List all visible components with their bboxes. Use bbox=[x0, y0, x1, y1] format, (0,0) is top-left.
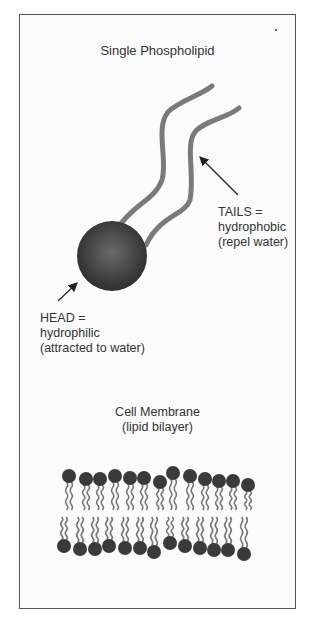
bottom-lipid-tail bbox=[151, 517, 153, 546]
top-lipid-head bbox=[108, 469, 122, 483]
head-arrow bbox=[58, 283, 77, 301]
top-lipid-head bbox=[137, 471, 151, 485]
bottom-lipid-head bbox=[221, 543, 235, 557]
bottom-lipid-tail bbox=[167, 517, 169, 537]
top-lipid-tail bbox=[170, 479, 172, 510]
tails-label-line1: TAILS = bbox=[218, 205, 288, 220]
bottom-lipid-head bbox=[57, 539, 71, 553]
bottom-lipid-tail bbox=[182, 517, 184, 540]
bottom-lipid-tail bbox=[141, 517, 143, 542]
bottom-lipid-head bbox=[193, 541, 207, 555]
membrane-label-line1: Cell Membrane bbox=[19, 405, 296, 420]
top-lipid-tail bbox=[141, 484, 143, 510]
head-label: HEAD = hydrophilic (attracted to water) bbox=[40, 311, 145, 356]
bottom-lipid-head bbox=[163, 536, 177, 550]
membrane-label-line2: (lipid bilayer) bbox=[19, 420, 296, 435]
top-lipid-head bbox=[241, 478, 255, 492]
head-label-line3: (attracted to water) bbox=[40, 341, 145, 356]
bottom-lipid-tail bbox=[241, 517, 243, 548]
top-lipid-tail bbox=[97, 485, 99, 510]
lipid-bilayer bbox=[57, 466, 255, 561]
top-lipid-head bbox=[153, 475, 167, 489]
top-lipid-head bbox=[198, 472, 212, 486]
top-lipid-tail bbox=[116, 482, 118, 510]
bottom-lipid-head bbox=[237, 547, 251, 561]
bottom-lipid-tail bbox=[81, 517, 83, 543]
top-lipid-tail bbox=[66, 482, 68, 510]
bottom-lipid-tail bbox=[215, 517, 217, 544]
top-lipid-tail bbox=[112, 482, 114, 510]
top-lipid-tail bbox=[145, 484, 147, 510]
bottom-lipid-tail bbox=[137, 517, 139, 542]
bottom-lipid-tail bbox=[201, 517, 203, 542]
top-lipid-tail bbox=[220, 487, 222, 510]
top-lipid-head bbox=[62, 469, 76, 483]
top-lipid-head bbox=[79, 472, 93, 486]
bottom-lipid-tail bbox=[92, 517, 94, 543]
bottom-lipid-tail bbox=[77, 517, 79, 543]
top-lipid-tail bbox=[230, 487, 232, 510]
bottom-lipid-head bbox=[133, 541, 147, 555]
top-lipid-tail bbox=[157, 488, 159, 510]
tails-label: TAILS = hydrophobic (repel water) bbox=[218, 205, 288, 250]
top-lipid-tail bbox=[206, 485, 208, 510]
top-lipid-head bbox=[212, 474, 226, 488]
tails-arrow bbox=[200, 157, 238, 195]
top-lipid-tail bbox=[202, 485, 204, 510]
bottom-lipid-head bbox=[118, 541, 132, 555]
top-lipid-head bbox=[226, 474, 240, 488]
top-lipid-tail bbox=[187, 482, 189, 510]
top-lipid-tail bbox=[249, 491, 251, 510]
bottom-lipid-head bbox=[88, 542, 102, 556]
bottom-lipid-tail bbox=[96, 517, 98, 543]
top-lipid-tail bbox=[216, 487, 218, 510]
top-lipid-tail bbox=[131, 484, 133, 510]
bottom-lipid-tail bbox=[229, 517, 231, 544]
head-label-line2: hydrophilic bbox=[40, 326, 145, 341]
top-lipid-tail bbox=[87, 485, 89, 510]
bottom-lipid-tail bbox=[186, 517, 188, 540]
bottom-lipid-tail bbox=[211, 517, 213, 544]
bottom-lipid-tail bbox=[155, 517, 157, 546]
top-lipid-tail bbox=[70, 482, 72, 510]
bottom-lipid-head bbox=[73, 542, 87, 556]
membrane-label: Cell Membrane (lipid bilayer) bbox=[19, 405, 296, 435]
bottom-lipid-tail bbox=[171, 517, 173, 537]
bottom-lipid-head bbox=[102, 539, 116, 553]
tail-left bbox=[118, 86, 212, 228]
top-lipid-tail bbox=[234, 487, 236, 510]
top-lipid-tail bbox=[127, 484, 129, 510]
top-lipid-tail bbox=[101, 485, 103, 510]
top-lipid-tail bbox=[245, 491, 247, 510]
bottom-lipid-head bbox=[207, 543, 221, 557]
top-lipid-head bbox=[93, 472, 107, 486]
bottom-lipid-head bbox=[147, 545, 161, 559]
top-lipid-head bbox=[123, 471, 137, 485]
bottom-lipid-tail bbox=[126, 517, 128, 542]
bottom-lipid-tail bbox=[197, 517, 199, 542]
bottom-lipid-tail bbox=[106, 517, 108, 540]
bottom-lipid-head bbox=[178, 539, 192, 553]
head-label-line1: HEAD = bbox=[40, 311, 145, 326]
bottom-lipid-tail bbox=[122, 517, 124, 542]
bottom-lipid-tail bbox=[245, 517, 247, 548]
bottom-lipid-tail bbox=[61, 517, 63, 540]
top-lipid-head bbox=[183, 469, 197, 483]
bottom-lipid-tail bbox=[225, 517, 227, 544]
top-lipid-tail bbox=[191, 482, 193, 510]
phospholipid-head bbox=[77, 221, 147, 291]
top-lipid-head bbox=[166, 466, 180, 480]
bottom-lipid-tail bbox=[65, 517, 67, 540]
tails-label-line2: hydrophobic bbox=[218, 220, 288, 235]
top-lipid-tail bbox=[161, 488, 163, 510]
tails-label-line3: (repel water) bbox=[218, 235, 288, 250]
bottom-lipid-tail bbox=[110, 517, 112, 540]
top-lipid-tail bbox=[83, 485, 85, 510]
top-lipid-tail bbox=[174, 479, 176, 510]
